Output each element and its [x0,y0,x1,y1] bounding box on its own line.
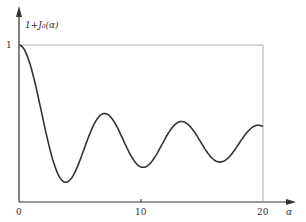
x-tick-20: 20 [257,207,268,217]
y-tick-1: 1 [6,40,12,50]
plot-area [0,0,306,222]
data-curve [19,45,263,182]
y-axis-label: 1+J₀(α) [25,20,59,30]
x-axis-label: α [286,207,292,217]
chart: 1+J₀(α) 1 0 10 20 α [0,0,306,222]
x-tick-10: 10 [135,207,146,217]
x-tick-0: 0 [16,207,22,217]
